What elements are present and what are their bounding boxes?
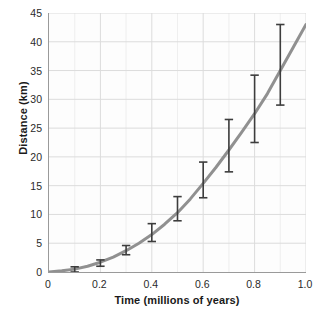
- y-tick-label: 25: [0, 123, 42, 134]
- chart-canvas: [49, 13, 306, 272]
- y-tick-label: 35: [0, 66, 42, 77]
- y-tick-label: 45: [0, 8, 42, 19]
- x-tick-label: 0.8: [234, 279, 274, 290]
- y-tick-label: 40: [0, 37, 42, 48]
- x-tick-label: 0.4: [131, 279, 171, 290]
- y-tick-label: 5: [0, 238, 42, 249]
- y-tick-label: 10: [0, 209, 42, 220]
- x-tick-label: 0.6: [182, 279, 222, 290]
- y-tick-label: 0: [0, 267, 42, 278]
- y-tick-label: 20: [0, 152, 42, 163]
- x-axis-label: Time (millions of years): [48, 294, 306, 306]
- plot-area: [48, 13, 306, 273]
- y-tick-label: 30: [0, 94, 42, 105]
- chart-figure: Distance (km) 051015202530354045 00.20.4…: [0, 0, 313, 311]
- x-tick-label: 0: [28, 279, 68, 290]
- y-tick-label: 15: [0, 181, 42, 192]
- x-tick-label: 0.2: [79, 279, 119, 290]
- x-tick-label: 1.0: [285, 279, 313, 290]
